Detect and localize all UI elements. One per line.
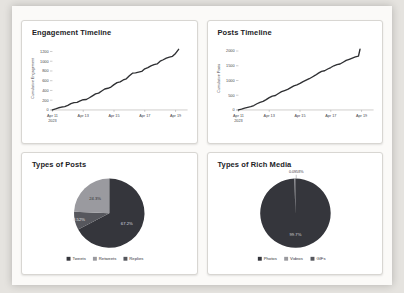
svg-text:GIFs: GIFs xyxy=(316,256,325,261)
svg-text:Apr 15: Apr 15 xyxy=(294,114,305,118)
svg-text:Apr 15: Apr 15 xyxy=(108,114,119,118)
types-of-posts-card: Types of Posts 67.2%8.52%24.3%TweetsRetw… xyxy=(21,152,198,276)
svg-text:0.0958%: 0.0958% xyxy=(288,170,303,174)
svg-text:Cumulative Posts: Cumulative Posts xyxy=(216,64,220,93)
svg-text:600: 600 xyxy=(42,79,48,83)
types-of-rich-media-card: Types of Rich Media 99.7%0.0958%PhotosVi… xyxy=(207,152,384,276)
svg-text:Apr 17: Apr 17 xyxy=(325,114,336,118)
svg-text:Photos: Photos xyxy=(263,256,276,261)
svg-text:2023: 2023 xyxy=(48,119,56,123)
svg-text:Apr 19: Apr 19 xyxy=(170,114,181,118)
svg-text:Apr 13: Apr 13 xyxy=(263,114,274,118)
svg-text:99.7%: 99.7% xyxy=(289,232,301,237)
svg-text:67.2%: 67.2% xyxy=(121,220,133,225)
svg-text:Tweets: Tweets xyxy=(72,256,85,261)
engagement-timeline-line-chart: 020040060080010001200Apr 112023Apr 13Apr… xyxy=(27,37,192,133)
svg-text:Retweets: Retweets xyxy=(99,256,116,261)
svg-text:0: 0 xyxy=(46,108,48,112)
svg-text:Apr 19: Apr 19 xyxy=(355,114,366,118)
svg-text:Videos: Videos xyxy=(290,256,303,261)
engagement-timeline-card: Engagement Timeline 02004006008001000120… xyxy=(21,20,198,144)
engagement-timeline-title: Engagement Timeline xyxy=(32,28,192,37)
svg-text:Cumulative Engagement: Cumulative Engagement xyxy=(31,57,35,99)
svg-text:1500: 1500 xyxy=(226,64,234,68)
svg-text:8.52%: 8.52% xyxy=(73,217,85,222)
dashboard-page: Engagement Timeline 02004006008001000120… xyxy=(12,6,392,285)
svg-text:800: 800 xyxy=(42,69,48,73)
svg-text:Apr 17: Apr 17 xyxy=(139,114,150,118)
svg-text:1000: 1000 xyxy=(40,60,48,64)
svg-text:2023: 2023 xyxy=(234,119,242,123)
types-of-rich-media-title: Types of Rich Media xyxy=(218,160,378,169)
svg-text:Apr 11: Apr 11 xyxy=(47,114,58,118)
types-of-posts-pie-chart: 67.2%8.52%24.3%TweetsRetweetsReplies xyxy=(27,169,192,265)
svg-text:200: 200 xyxy=(42,99,48,103)
svg-text:Apr 11: Apr 11 xyxy=(232,114,243,118)
svg-text:Apr 13: Apr 13 xyxy=(78,114,89,118)
posts-timeline-title: Posts Timeline xyxy=(218,28,378,37)
types-of-posts-title: Types of Posts xyxy=(32,160,192,169)
svg-text:0: 0 xyxy=(232,108,234,112)
posts-timeline-line-chart: 0500100015002000Apr 112023Apr 13Apr 15Ap… xyxy=(213,37,378,133)
svg-text:1000: 1000 xyxy=(226,79,234,83)
svg-text:Replies: Replies xyxy=(129,256,143,261)
svg-text:400: 400 xyxy=(42,89,48,93)
svg-text:2000: 2000 xyxy=(226,49,234,53)
charts-grid: Engagement Timeline 02004006008001000120… xyxy=(21,20,383,275)
svg-text:1200: 1200 xyxy=(40,50,48,54)
svg-text:24.3%: 24.3% xyxy=(89,196,101,201)
types-of-rich-media-pie-chart: 99.7%0.0958%PhotosVideosGIFs xyxy=(213,169,378,265)
posts-timeline-card: Posts Timeline 0500100015002000Apr 11202… xyxy=(207,20,384,144)
svg-text:500: 500 xyxy=(228,94,234,98)
